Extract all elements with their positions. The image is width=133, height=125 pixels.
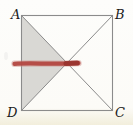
geometry-diagram: A B C D <box>0 0 133 125</box>
square-diagram-svg: A B C D <box>0 0 133 125</box>
faint-smudge-mark <box>4 52 8 60</box>
vertex-label-a: A <box>10 7 20 22</box>
vertex-label-b: B <box>114 7 125 22</box>
red-marker-stroke-center-blob <box>66 63 77 64</box>
vertex-label-d: D <box>6 105 18 120</box>
vertex-label-c: C <box>115 105 125 120</box>
